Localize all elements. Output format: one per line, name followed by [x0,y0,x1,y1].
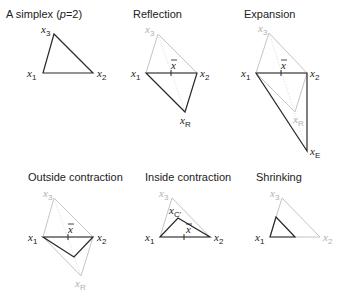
vertex-label-x3: x3 [269,187,280,202]
shrunk-triangle [270,217,295,237]
vertex-label-x2: x2 [322,231,333,246]
vertex-label-x1: x1 [254,231,265,246]
reflected-triangle [256,73,307,112]
vertex-label-x2: x2 [199,67,210,82]
centroid-label: x [280,59,286,71]
panel-outside-contraction: Outside contraction x3 x1 x2 x xR [27,171,123,292]
vertex-label-xr: xR [179,114,191,129]
centroid-label: x [170,59,176,71]
vertex-label-x1: x1 [130,67,141,82]
vertex-label-xr: xR [74,277,86,292]
panel-simplex: A simplex (p=2) x3 x1 x2 [6,8,107,82]
panel-title: A simplex (p=2) [6,8,82,20]
simplex-triangle [43,34,93,73]
vertex-label-x2: x2 [96,231,107,246]
panel-title: Expansion [244,8,295,20]
nelder-mead-diagram: A simplex (p=2) x3 x1 x2 Reflection x3 x… [0,0,352,302]
panel-reflection: Reflection x3 x1 x2 x xR [130,8,210,129]
panel-title: Outside contraction [28,171,123,183]
centroid-label: x [185,223,191,235]
vertex-label-x3: x3 [42,187,53,202]
panel-expansion: Expansion x3 x1 x2 x xR xE [240,8,320,160]
vertex-label-x1: x1 [240,67,251,82]
panel-shrinking: Shrinking x3 x1 x2 [254,171,333,246]
panel-title: Reflection [133,8,182,20]
vertex-label-x3: x3 [257,22,268,37]
original-triangle [270,198,320,237]
vertex-label-x2: x2 [213,231,224,246]
vertex-label-xe: xE [309,145,320,160]
vertex-label-x2: x2 [96,67,107,82]
panel-inside-contraction: Inside contraction x3 xC' x1 x2 x [144,171,231,246]
vertex-label-x2: x2 [309,67,320,82]
panel-title: Inside contraction [145,171,231,183]
original-triangle [160,198,210,237]
vertex-label-x1: x1 [26,67,37,82]
vertex-label-xr: xR [292,113,304,128]
centroid-label: x [67,223,73,235]
vertex-label-x1: x1 [144,231,155,246]
reflected-triangle [146,73,197,112]
panel-title: Shrinking [256,171,302,183]
expanded-triangle [256,73,307,151]
vertex-label-x3: x3 [144,23,155,38]
vertex-label-x3: x3 [40,23,51,38]
vertex-label-x1: x1 [27,231,38,246]
contracted-triangle [160,218,210,237]
reflected-triangle [43,237,93,276]
vertex-label-x3: x3 [158,187,169,202]
